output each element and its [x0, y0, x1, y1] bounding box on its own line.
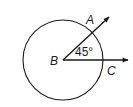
label-B: B	[50, 54, 58, 68]
label-C: C	[107, 64, 116, 78]
angle-measure-label: 45°	[75, 45, 93, 59]
label-A: A	[85, 13, 94, 27]
angle-diagram: A B C 45°	[0, 0, 133, 107]
